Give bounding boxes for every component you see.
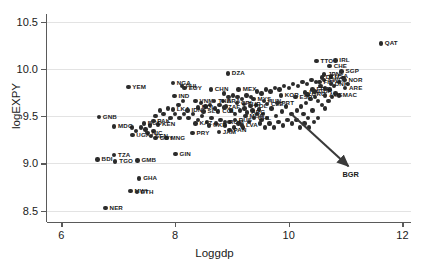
gridline-y-0 [47,211,411,212]
plot-area: QATTTOIRLCHESGPDZANGAYEMJPNUSADEUNORSWEF… [47,14,411,222]
data-point-VNM [193,99,197,103]
data-point-SLV [201,109,205,113]
data-point-CZE [265,102,269,106]
data-point-CHE [327,64,331,68]
data-point-label-JAM: JAM [223,129,236,135]
data-point-MWI [128,189,132,193]
data-point [294,118,298,122]
data-point [306,116,310,120]
data-point-label-GBR: GBR [318,88,332,94]
data-point-CHN [209,87,213,91]
data-point-ZAF [222,105,226,109]
x-tick-mark-3 [402,222,403,227]
data-point-FIN [317,80,321,84]
data-point-label-BDI: BDI [102,156,113,162]
data-point-GHA [137,176,141,180]
data-point [296,84,300,88]
data-point-PAK [151,119,155,123]
data-point-label-TGO: TGO [119,158,133,164]
data-point [282,84,286,88]
y-tick-mark-4 [41,22,46,23]
x-tick-label-3: 12 [387,230,417,241]
data-point-GNB [97,115,101,119]
data-point-label-GIN: GIN [180,151,191,157]
data-point-label-IND: IND [178,93,189,99]
data-point-KAZ [193,121,197,125]
data-point-PRT [275,101,279,105]
data-point-label-PAK: PAK [157,118,170,124]
data-point [287,86,291,90]
y-tick-label-0: 8.5 [2,206,38,217]
data-point-label-MEX: MEX [243,86,257,92]
data-point-NER [103,206,107,210]
data-point [277,87,281,91]
data-point-label-MAC: MAC [343,92,357,98]
data-point-GIN [173,152,177,156]
data-point [272,125,276,129]
data-point [139,125,143,129]
data-point-label-NER: NER [110,205,123,211]
y-axis-label: logEXPY [10,66,22,146]
data-point-TTO [314,59,318,63]
data-point-label-SLV: SLV [207,108,219,114]
data-point [280,109,284,113]
data-point-IDN [185,108,189,112]
data-point [177,116,181,120]
data-point-GMB [135,158,139,162]
data-point-IND [172,94,176,98]
data-point-KOR [279,93,283,97]
data-point-MYS [251,97,255,101]
data-point [307,125,311,129]
x-tick-label-2: 10 [274,230,304,241]
data-point-ETH [135,190,139,194]
x-tick-mark-0 [61,222,62,227]
data-point [263,125,267,129]
data-point-BGD [142,121,146,125]
data-point [258,121,262,125]
gridline-y-4 [47,22,411,23]
data-point-label-GMB: GMB [141,157,156,163]
data-point-JAM [217,130,221,134]
data-point [305,82,309,86]
x-tick-mark-2 [289,222,290,227]
data-point-GBR [312,89,316,93]
data-point-UKR [207,123,211,127]
data-point-YEM [126,85,130,89]
data-point-label-LVA: LVA [246,122,258,128]
data-point-label-YEM: YEM [132,84,146,90]
y-tick-mark-1 [41,163,46,164]
data-point-NGA [171,81,175,85]
x-tick-mark-1 [175,222,176,227]
y-tick-label-1: 9.0 [2,158,38,169]
data-point [186,116,190,120]
data-point-UGA [130,133,134,137]
data-point-ARE [343,86,347,90]
data-point-label-PRY: PRY [197,130,210,136]
data-point [267,121,271,125]
data-point [200,114,204,118]
data-point [304,101,308,105]
data-point-label-ESP: ESP [300,94,313,100]
gridline-y-1 [47,163,411,164]
data-point-MEX [236,87,240,91]
data-point-label-NOR: NOR [348,77,362,83]
data-point-label-DZA: DZA [232,70,245,76]
data-point-label-CHN: CHN [215,86,229,92]
data-point [316,116,320,120]
x-axis-label: Loggdp [0,247,429,259]
data-point [268,89,272,93]
data-point [291,82,295,86]
y-tick-label-4: 10.5 [2,17,38,28]
gridline-y-2 [47,116,411,117]
data-point-label-GNB: GNB [103,114,117,120]
data-point-THA [212,99,216,103]
data-point-PRY [190,131,194,135]
data-point-label-ARE: ARE [349,85,362,91]
scatter-plot-figure: QATTTOIRLCHESGPDZANGAYEMJPNUSADEUNORSWEF… [0,0,429,269]
data-point [276,120,280,124]
data-point [326,99,330,103]
data-point [290,121,294,125]
data-point-label-PRT: PRT [281,100,294,106]
y-axis-line [46,14,47,222]
data-point-DZA [226,71,230,75]
